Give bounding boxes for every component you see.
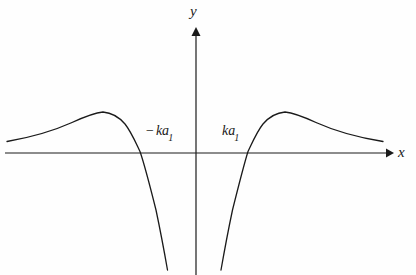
right-root-label: ka1 (222, 124, 240, 141)
curve-right-branch (221, 112, 383, 270)
math-plot-figure: y x −ka1 ka1 (0, 0, 416, 275)
curve-left-branch (7, 112, 168, 270)
plot-canvas (0, 0, 416, 275)
left-root-label: −ka1 (146, 124, 174, 141)
y-axis-arrowhead (192, 27, 201, 36)
minus-sign: − (146, 123, 154, 138)
y-axis-label: y (190, 4, 197, 19)
x-axis (5, 149, 394, 158)
right-root-subscript: 1 (234, 132, 239, 143)
left-root-subscript: 1 (168, 132, 173, 143)
x-axis-arrowhead (386, 149, 394, 158)
x-axis-label: x (398, 145, 405, 160)
y-axis (192, 27, 201, 275)
